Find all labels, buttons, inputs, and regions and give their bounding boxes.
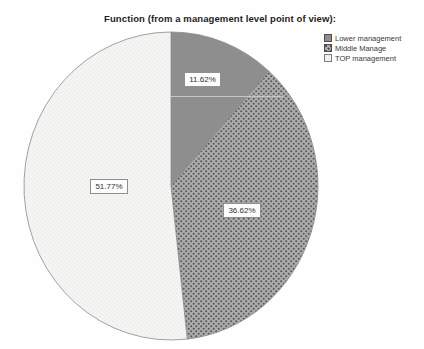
slice-label-lower-management: 11.62% [184, 72, 221, 87]
legend-item-top-management: TOP management [324, 53, 401, 63]
pie-chart-figure: Function (from a management level point … [0, 0, 424, 349]
legend-label-middle-manage: Middle Manage [335, 44, 386, 53]
legend-item-middle-manage: Middle Manage [324, 43, 401, 53]
legend-swatch-lower-management-icon [324, 34, 332, 42]
legend-swatch-middle-manage-icon [324, 44, 332, 52]
slice-label-top-management: 51.77% [90, 179, 128, 194]
legend-label-lower-management: Lower management [335, 34, 401, 43]
legend-item-lower-management: Lower management [324, 33, 401, 43]
slice-label-middle-manage: 36.62% [223, 203, 261, 218]
pie-slices [24, 32, 318, 340]
legend-label-top-management: TOP management [335, 54, 396, 63]
legend: Lower management Middle Manage TOP manag… [324, 33, 401, 63]
legend-swatch-top-management-icon [324, 54, 332, 62]
